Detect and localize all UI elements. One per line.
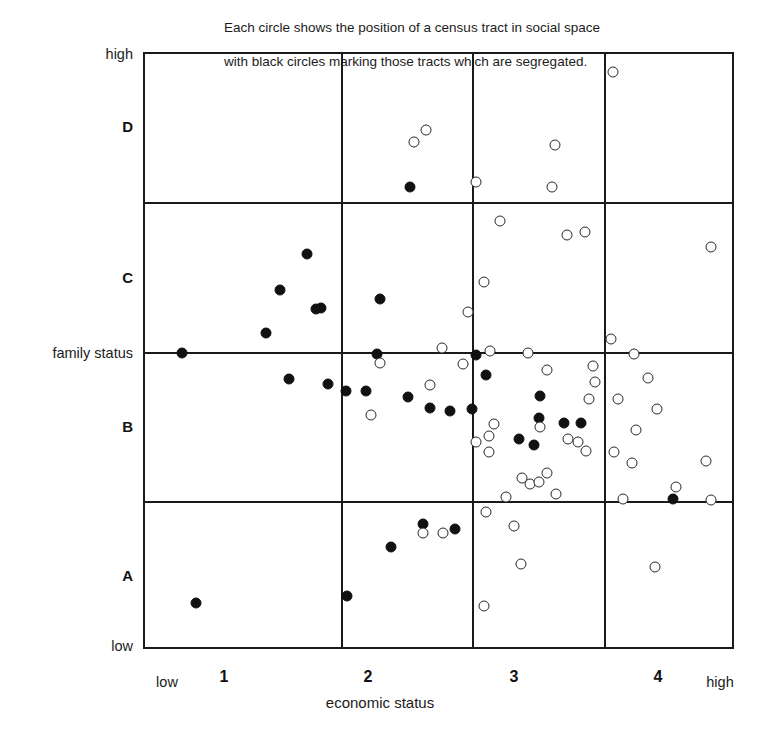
data-point-filled	[315, 302, 326, 313]
data-point-filled	[322, 378, 333, 389]
data-point-open	[481, 507, 492, 518]
data-point-open	[541, 468, 552, 479]
data-point-filled	[514, 434, 525, 445]
data-point-open	[541, 365, 552, 376]
data-point-open	[649, 562, 660, 573]
data-point-filled	[667, 493, 678, 504]
data-point-open	[561, 229, 572, 240]
data-point-filled	[558, 417, 569, 428]
data-point-open	[706, 495, 717, 506]
x-axis-title: economic status	[0, 694, 760, 711]
data-point-open	[501, 492, 512, 503]
data-point-open	[590, 377, 601, 388]
x-axis-high-label: high	[706, 674, 733, 690]
x-axis-tick-3: 3	[510, 668, 519, 686]
x-axis-tick-1: 1	[220, 668, 229, 686]
y-axis-band-b: B	[122, 418, 133, 435]
data-point-open	[438, 528, 449, 539]
plot-area	[145, 54, 732, 647]
data-point-open	[463, 307, 474, 318]
data-point-filled	[481, 369, 492, 380]
data-point-filled	[342, 590, 353, 601]
data-point-filled	[444, 405, 455, 416]
data-point-open	[424, 380, 435, 391]
y-axis-high-label: high	[106, 46, 133, 62]
data-point-open	[478, 277, 489, 288]
data-point-filled	[191, 598, 202, 609]
data-point-open	[583, 393, 594, 404]
gridline-vertical	[341, 54, 343, 647]
data-point-open	[562, 434, 573, 445]
data-point-open	[523, 347, 534, 358]
data-point-open	[579, 226, 590, 237]
data-point-filled	[260, 328, 271, 339]
data-point-open	[515, 559, 526, 570]
data-point-filled	[375, 293, 386, 304]
x-axis-tick-2: 2	[364, 668, 373, 686]
caption-line-1: Each circle shows the position of a cens…	[224, 20, 600, 35]
data-point-open	[484, 447, 495, 458]
data-point-open	[627, 457, 638, 468]
data-point-open	[409, 137, 420, 148]
data-point-filled	[385, 541, 396, 552]
data-point-open	[547, 181, 558, 192]
data-point-open	[535, 422, 546, 433]
data-point-open	[618, 493, 629, 504]
data-point-open	[418, 528, 429, 539]
data-point-open	[375, 357, 386, 368]
data-point-filled	[340, 386, 351, 397]
data-point-filled	[528, 440, 539, 451]
data-point-open	[607, 66, 618, 77]
gridline-horizontal	[145, 202, 732, 204]
data-point-filled	[467, 404, 478, 415]
data-point-open	[587, 360, 598, 371]
data-point-open	[457, 359, 468, 370]
data-point-filled	[405, 181, 416, 192]
y-axis-band-a: A	[122, 567, 133, 584]
data-point-filled	[470, 350, 481, 361]
data-point-open	[608, 447, 619, 458]
y-axis-band-c: C	[122, 269, 133, 286]
data-point-filled	[402, 392, 413, 403]
data-point-open	[628, 348, 639, 359]
y-axis-title: family status	[52, 345, 133, 361]
data-point-open	[534, 477, 545, 488]
data-point-filled	[275, 284, 286, 295]
data-point-open	[612, 393, 623, 404]
data-point-filled	[301, 248, 312, 259]
data-point-open	[643, 372, 654, 383]
x-axis: low 1 2 3 4 high	[0, 652, 760, 729]
data-point-open	[652, 404, 663, 415]
x-axis-low-label: low	[156, 674, 178, 690]
data-point-open	[485, 346, 496, 357]
data-point-open	[551, 489, 562, 500]
gridline-horizontal	[145, 501, 732, 503]
data-point-open	[631, 425, 642, 436]
data-point-open	[421, 125, 432, 136]
data-point-open	[581, 446, 592, 457]
y-axis-band-d: D	[122, 118, 133, 135]
data-point-open	[700, 456, 711, 467]
data-point-open	[484, 431, 495, 442]
data-point-open	[706, 241, 717, 252]
data-point-open	[670, 481, 681, 492]
gridline-vertical	[604, 54, 606, 647]
data-point-filled	[360, 386, 371, 397]
data-point-open	[509, 520, 520, 531]
data-point-filled	[576, 417, 587, 428]
data-point-filled	[424, 402, 435, 413]
data-point-filled	[284, 374, 295, 385]
data-point-open	[489, 419, 500, 430]
plot-frame	[143, 52, 734, 649]
data-point-open	[470, 437, 481, 448]
data-point-open	[365, 410, 376, 421]
data-point-open	[549, 140, 560, 151]
data-point-filled	[449, 523, 460, 534]
data-point-open	[436, 343, 447, 354]
data-point-open	[606, 334, 617, 345]
y-axis: high D C family status B A low	[0, 0, 133, 729]
data-point-open	[470, 177, 481, 188]
data-point-open	[478, 601, 489, 612]
data-point-filled	[535, 390, 546, 401]
data-point-open	[494, 216, 505, 227]
